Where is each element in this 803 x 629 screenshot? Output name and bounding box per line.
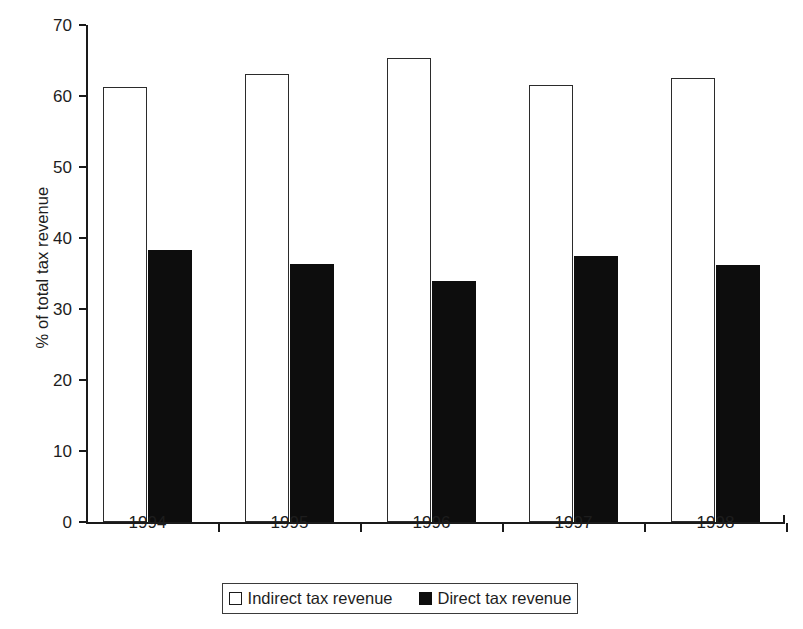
- black-square-icon: [419, 592, 432, 605]
- y-tick-label: 60: [53, 87, 72, 104]
- legend-label: Indirect tax revenue: [248, 589, 393, 608]
- bar-1998-indirect: [671, 78, 715, 522]
- y-tick: 40: [79, 237, 86, 239]
- legend-item-direct: Direct tax revenue: [419, 589, 572, 608]
- white-square-icon: [229, 592, 242, 605]
- x-axis-label-1998: 1998: [697, 513, 735, 533]
- bar-chart: % of total tax revenue 010203040506070 1…: [0, 0, 803, 629]
- x-tick: [502, 523, 504, 532]
- y-tick-label: 30: [53, 300, 72, 317]
- bar-1996-direct: [432, 281, 476, 522]
- y-tick: 20: [79, 379, 86, 381]
- x-axis-label-1996: 1996: [413, 513, 451, 533]
- bars-layer: [86, 25, 785, 522]
- legend-item-indirect: Indirect tax revenue: [229, 589, 393, 608]
- bar-1995-indirect: [245, 74, 289, 522]
- bar-1997-direct: [574, 256, 618, 522]
- y-tick: 50: [79, 166, 86, 168]
- bar-1996-indirect: [387, 58, 431, 522]
- bar-1995-direct: [290, 264, 334, 522]
- x-axis-label-1997: 1997: [555, 513, 593, 533]
- bar-1998-direct: [716, 265, 760, 522]
- y-tick: 30: [79, 308, 86, 310]
- x-tick: [218, 523, 220, 532]
- y-tick: 0: [79, 521, 86, 523]
- x-tick: [360, 523, 362, 532]
- x-tick: [786, 523, 788, 532]
- y-axis-label: % of total tax revenue: [33, 138, 52, 398]
- legend-label: Direct tax revenue: [438, 589, 572, 608]
- bar-1994-direct: [148, 250, 192, 522]
- x-tick: [644, 523, 646, 532]
- y-tick: 70: [79, 24, 86, 26]
- y-tick-label: 10: [53, 442, 72, 459]
- bar-1997-indirect: [529, 85, 573, 522]
- x-axis-label-1994: 1994: [129, 513, 167, 533]
- y-tick-label: 50: [53, 158, 72, 175]
- x-axis-label-1995: 1995: [271, 513, 309, 533]
- y-tick-label: 70: [53, 17, 72, 34]
- bar-1994-indirect: [103, 87, 147, 522]
- y-tick-label: 40: [53, 229, 72, 246]
- y-tick: 60: [79, 95, 86, 97]
- y-tick-label: 20: [53, 371, 72, 388]
- y-tick: 10: [79, 450, 86, 452]
- plot-area: 010203040506070: [86, 25, 785, 522]
- chart-legend: Indirect tax revenueDirect tax revenue: [222, 583, 578, 614]
- y-tick-label: 0: [63, 513, 72, 530]
